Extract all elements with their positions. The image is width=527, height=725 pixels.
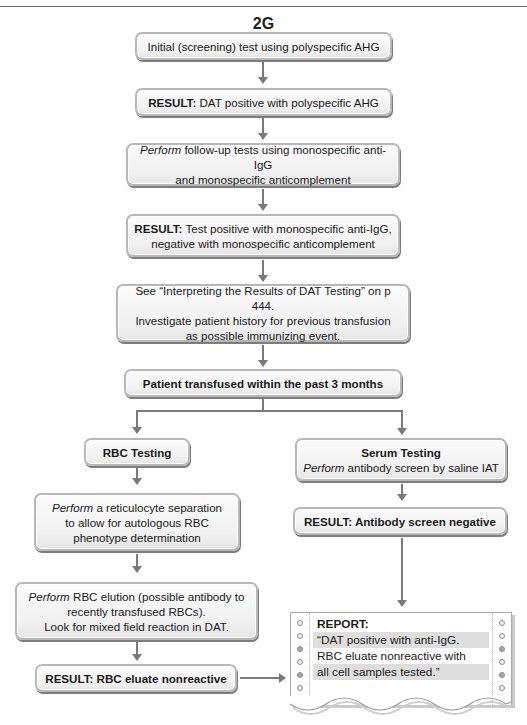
report-title: REPORT: (313, 616, 489, 632)
connector (262, 345, 264, 360)
result-text: DAT positive with polyspecific AHG (196, 96, 379, 109)
step-text: antibody screen by saline IAT (344, 461, 498, 474)
arrow-down-icon (258, 77, 268, 84)
connector (401, 410, 403, 428)
result-antibody-screen: RESULT: Antibody screen negative (293, 507, 507, 535)
step-text: See “Interpreting the Results of DAT Tes… (135, 284, 390, 312)
arrow-down-icon (397, 494, 407, 501)
connector (262, 260, 264, 275)
perform-label: Perform (303, 461, 344, 474)
report-line: “DAT positive with anti-IgG. (313, 632, 489, 648)
step-text: a reticulocyte separation (93, 501, 222, 514)
connector (240, 677, 280, 679)
result-text: RBC eluate nonreactive (93, 672, 226, 685)
feed-hole-icon (499, 633, 505, 639)
page-top-rule (0, 6, 527, 7)
feed-hole-icon (297, 659, 303, 665)
serum-testing: Serum TestingPerform antibody screen by … (295, 438, 507, 481)
arrow-right-icon (279, 673, 286, 683)
result-label: RESULT: (304, 515, 352, 528)
result-label: RESULT: (45, 672, 93, 685)
perform-label: Perform (140, 143, 181, 156)
step-initial-screening: Initial (screening) test using polyspeci… (135, 32, 392, 60)
step-text: Patient transfused within the past 3 mon… (143, 376, 383, 391)
step-patient-transfused: Patient transfused within the past 3 mon… (124, 369, 402, 397)
connector (262, 62, 264, 77)
connector (136, 642, 138, 654)
branch-connector (136, 410, 403, 412)
step-text: RBC elution (possible antibody to (70, 590, 245, 603)
feed-hole-icon (499, 646, 505, 652)
feed-hole-icon (297, 633, 303, 639)
arrow-down-icon (258, 204, 268, 211)
report-sheet: REPORT: “DAT positive with anti-IgG. RBC… (290, 612, 512, 705)
figure-label: 2G (0, 15, 527, 33)
step-text: follow-up tests using monospecific anti-… (181, 143, 386, 171)
feed-hole-icon (499, 685, 505, 691)
arrow-down-icon (258, 133, 268, 140)
result-text: Antibody screen negative (352, 515, 496, 528)
connector (401, 538, 403, 601)
connector (262, 118, 264, 133)
perform-label: Perform (52, 501, 93, 514)
arrow-down-icon (132, 427, 142, 434)
result-rbc-eluate: RESULT: RBC eluate nonreactive (35, 664, 237, 692)
step-result-dat-positive: RESULT: DAT positive with polyspecific A… (135, 88, 392, 116)
result-text: negative with monospecific anticomplemen… (151, 237, 375, 250)
serum-testing-title: Serum Testing (361, 446, 441, 459)
report-line: all cell samples tested.” (313, 664, 489, 680)
step-text: Look for mixed field reaction in DAT. (44, 620, 229, 633)
arrow-down-icon (132, 566, 142, 573)
arrow-down-icon (397, 428, 407, 435)
step-follow-up-tests: Perform follow-up tests using monospecif… (126, 143, 400, 186)
step-text: Investigate patient history for previous… (135, 314, 390, 327)
feed-hole-icon (297, 620, 303, 626)
step-text: to allow for autologous RBC (65, 516, 209, 529)
result-label: RESULT: (134, 222, 182, 235)
feed-hole-icon (499, 659, 505, 665)
connector (136, 410, 138, 427)
feed-hole-icon (297, 685, 303, 691)
feed-hole-icon (297, 646, 303, 652)
feed-hole-icon (297, 672, 303, 678)
result-text: Test positive with monospecific anti-IgG… (182, 222, 391, 235)
step-text: recently transfused RBCs). (67, 605, 206, 618)
result-label: RESULT: (148, 96, 196, 109)
torn-edge-icon (289, 696, 515, 718)
report-line: RBC eluate nonreactive with (313, 648, 489, 664)
arrow-down-icon (132, 478, 142, 485)
arrow-down-icon (132, 654, 142, 661)
step-reticulocyte-separation: Perform a reticulocyte separationto allo… (34, 493, 240, 551)
step-result-monospecific: RESULT: Test positive with monospecific … (126, 214, 400, 257)
step-investigate-history: See “Interpreting the Results of DAT Tes… (116, 284, 410, 342)
feed-hole-icon (499, 620, 505, 626)
step-text: as possible immunizing event. (186, 329, 341, 342)
perform-label: Perform (29, 590, 70, 603)
step-rbc-elution: Perform RBC elution (possible antibody t… (15, 582, 258, 640)
rbc-testing: RBC Testing (84, 438, 190, 466)
step-text: phenotype determination (73, 531, 201, 544)
feed-hole-icon (499, 672, 505, 678)
arrow-down-icon (258, 275, 268, 282)
arrow-down-icon (397, 600, 407, 607)
step-initial-screening-text: Initial (screening) test using polyspeci… (148, 39, 380, 54)
rbc-testing-text: RBC Testing (103, 445, 172, 460)
connector (136, 554, 138, 566)
connector (262, 189, 264, 204)
step-text: and monospecific anticomplement (175, 173, 350, 186)
arrow-down-icon (258, 360, 268, 367)
